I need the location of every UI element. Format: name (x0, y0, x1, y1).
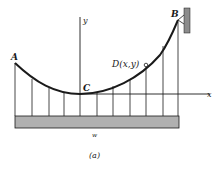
label-a: A (10, 52, 18, 62)
cable-curve (15, 20, 178, 94)
label-load: w (92, 131, 98, 138)
label-b: B (170, 9, 179, 19)
wall-bracket (178, 15, 184, 24)
label-y-axis: y (82, 16, 88, 25)
figure-caption: (a) (89, 151, 100, 160)
label-x-axis: x (207, 90, 212, 99)
label-c: C (83, 83, 91, 93)
hangers (15, 22, 178, 116)
wall-support (184, 8, 190, 33)
point-d-marker (144, 63, 148, 67)
deck (15, 116, 179, 128)
label-d: D(x,y) (111, 59, 140, 69)
cable-diagram: A B C D(x,y) y x w (a) (0, 0, 224, 172)
